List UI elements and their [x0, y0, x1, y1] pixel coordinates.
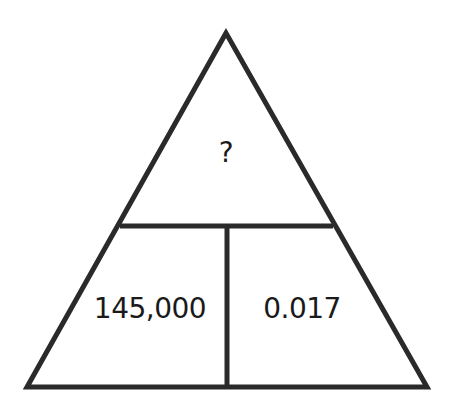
bottom-right-value: 0.017 — [263, 292, 341, 325]
top-section-value: ? — [219, 136, 233, 169]
triangle-diagram — [0, 0, 450, 411]
bottom-left-value: 145,000 — [94, 292, 206, 325]
